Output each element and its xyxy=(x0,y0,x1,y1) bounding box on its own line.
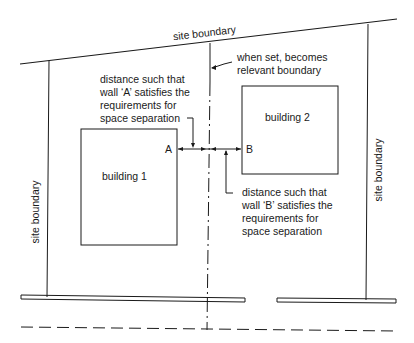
wall-a-note-line-3: requirements for xyxy=(100,99,177,111)
kerb-right xyxy=(277,298,396,303)
relevant-boundary-dashdot xyxy=(207,82,210,330)
right-site-boundary-label: site boundary xyxy=(372,138,384,202)
wall-a-label: A xyxy=(165,143,172,155)
right-site-boundary-line xyxy=(366,24,368,300)
wall-b-label: B xyxy=(246,143,253,155)
wall-a-note-line-2: wall ‘A’ satisfies the xyxy=(99,86,190,98)
wall-b-note-line-4: space separation xyxy=(242,225,322,237)
dim-arrow-b xyxy=(236,147,241,151)
wall-b-note-line-3: requirements for xyxy=(242,212,319,224)
building-2-label: building 2 xyxy=(265,111,310,123)
building-1-label: building 1 xyxy=(102,170,147,182)
relevant-boundary-note-line-1: when set, becomes xyxy=(236,51,327,63)
building-1 xyxy=(81,129,177,245)
wall-a-note-line-4: space separation xyxy=(100,112,180,124)
left-site-boundary-line xyxy=(47,61,49,297)
wall-b-note-line-1: distance such that xyxy=(242,186,327,198)
wall-b-note-line-2: wall ‘B’ satisfies the xyxy=(241,199,333,211)
wall-a-leader-arrow xyxy=(191,143,195,148)
relevant-boundary-note-line-2: relevant boundary xyxy=(237,64,322,76)
wall-b-leader xyxy=(226,151,233,193)
wall-a-note-line-1: distance such that xyxy=(100,73,185,85)
dim-arrow-boundary-left xyxy=(201,147,206,151)
wall-b-leader-arrow xyxy=(224,150,228,155)
building-2 xyxy=(242,86,338,174)
dim-arrow-a xyxy=(178,147,183,151)
left-site-boundary-label: site boundary xyxy=(29,180,41,244)
kerb-left xyxy=(21,295,245,302)
relevant-boundary-leader-arrow xyxy=(211,65,216,70)
dim-arrow-boundary-right xyxy=(211,147,216,151)
wall-a-leader xyxy=(187,118,193,146)
space-separation-diagram: site boundary site boundary site boundar… xyxy=(0,0,414,343)
road-centre-line xyxy=(21,327,396,331)
